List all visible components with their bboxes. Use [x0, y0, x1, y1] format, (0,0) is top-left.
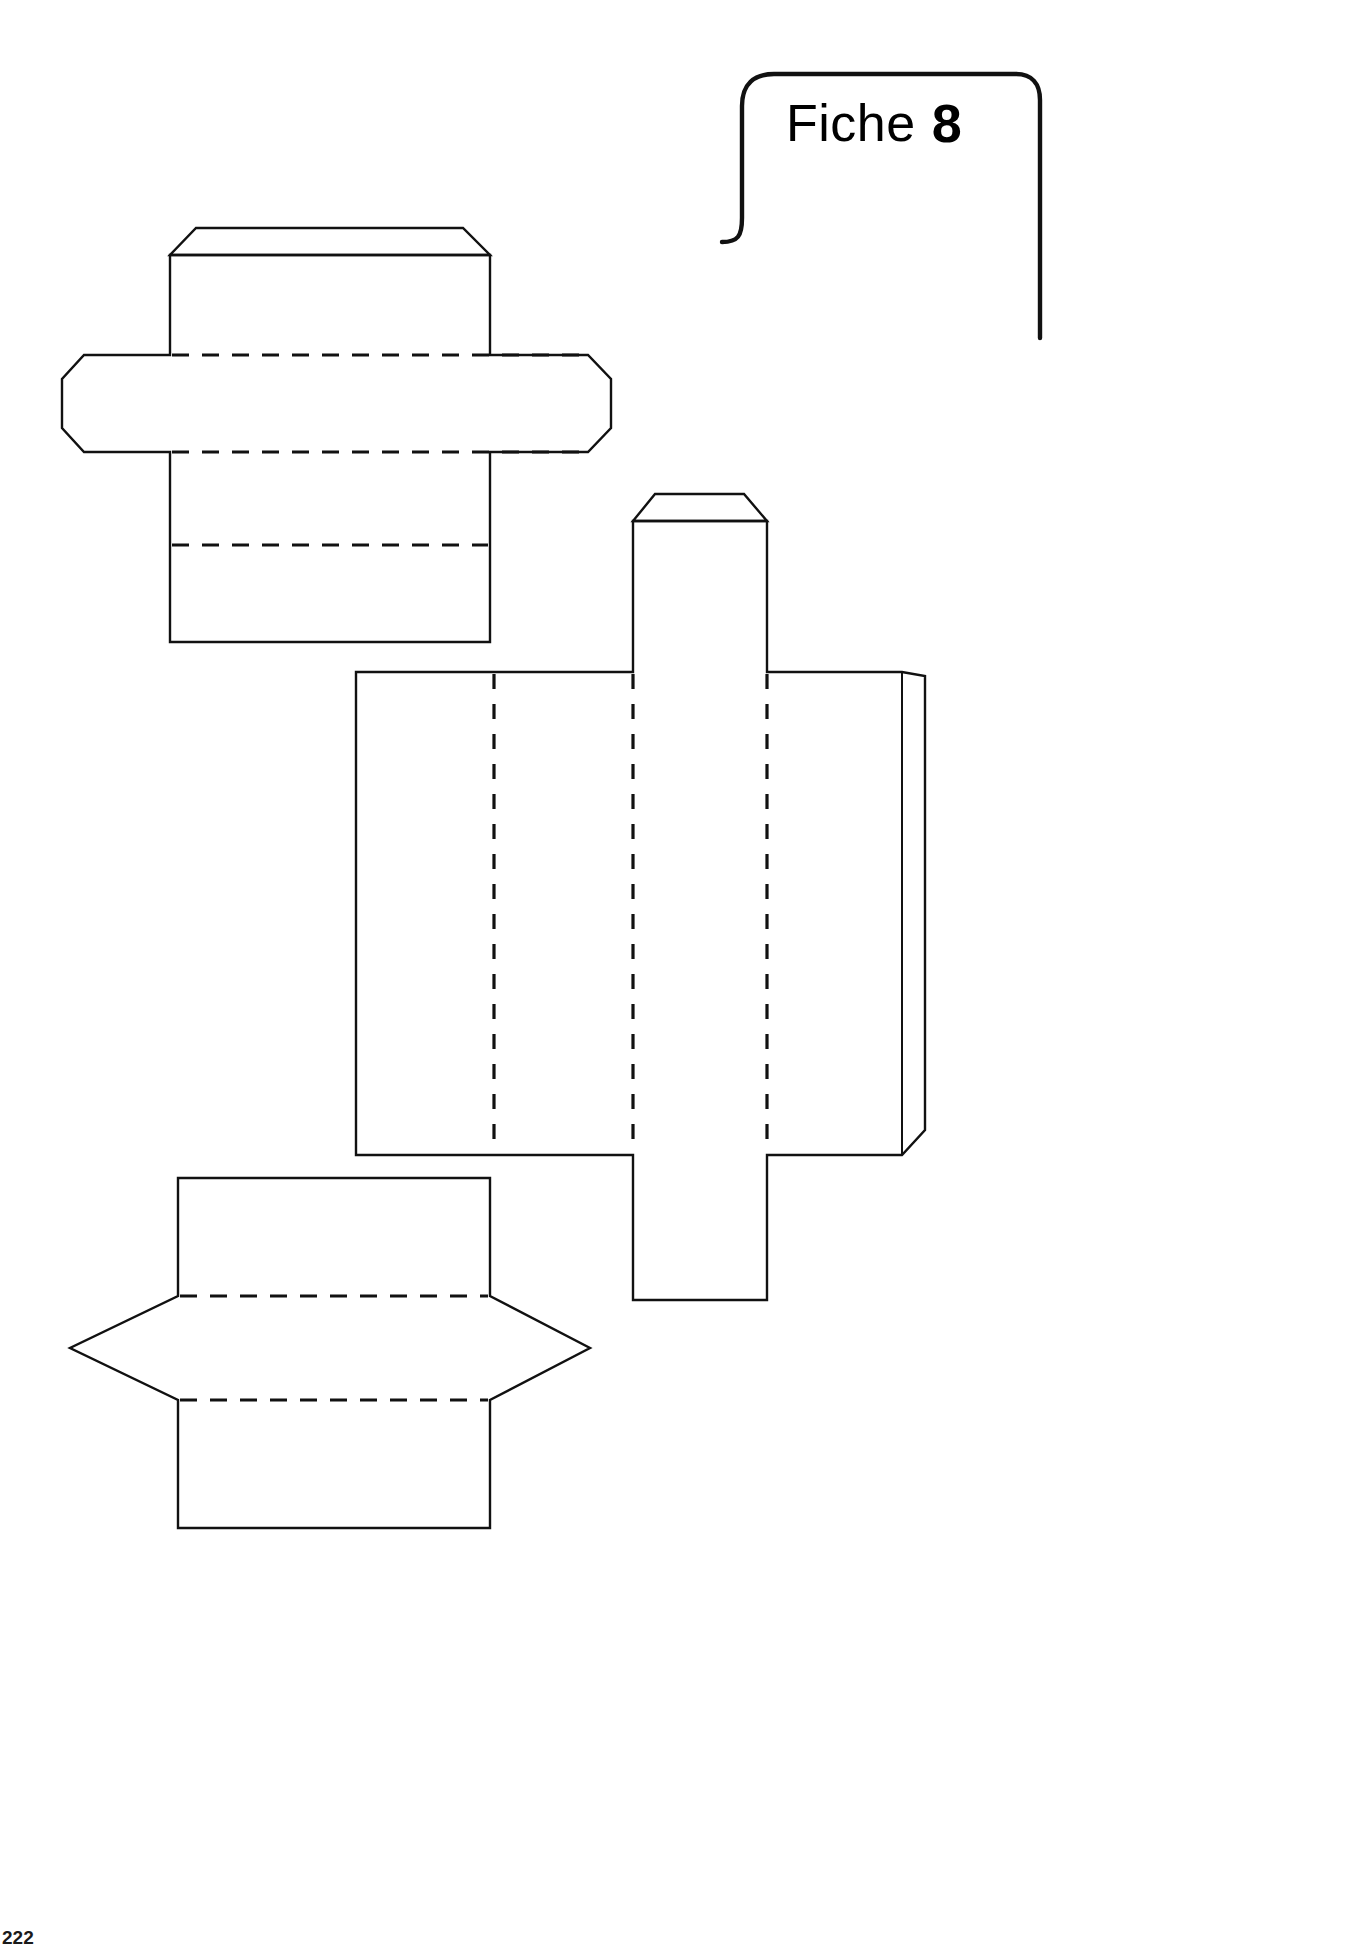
fiche-badge: Fiche 8	[716, 66, 1046, 341]
net-top-left	[62, 228, 611, 642]
net-top-left-outline	[62, 255, 611, 642]
fiche-badge-label: Fiche 8	[786, 86, 1036, 160]
nets-drawing-canvas	[0, 0, 1346, 1947]
net-top-left-top-flap	[170, 228, 490, 255]
fiche-badge-word: Fiche	[786, 97, 916, 149]
net-middle-right-outline	[356, 521, 925, 1300]
worksheet-page: Fiche 8 222	[0, 0, 1346, 1947]
net-bottom-left-outline	[70, 1178, 590, 1528]
net-bottom-left	[70, 1178, 590, 1528]
net-middle-chimney-top-flap	[633, 494, 767, 521]
page-number: 222	[2, 1928, 34, 1947]
fiche-badge-number: 8	[932, 96, 963, 150]
